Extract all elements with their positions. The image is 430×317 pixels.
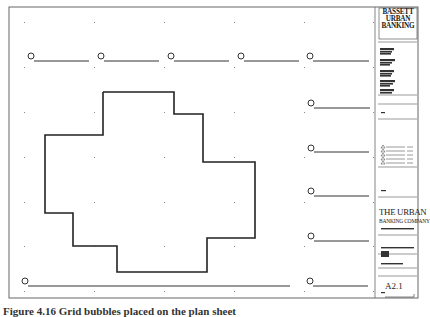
grid-bubble[interactable] (168, 53, 229, 61)
grid-bubble[interactable] (238, 53, 299, 61)
grid-bubble[interactable] (98, 53, 159, 61)
building-outline (45, 92, 255, 272)
bottom-grid-bubble[interactable] (22, 278, 290, 286)
company-name-line1: THE URBAN (379, 208, 426, 217)
figure-caption: Figure 4.16 Grid bubbles placed on the p… (3, 305, 236, 317)
grid-bubble[interactable] (308, 233, 369, 241)
grid-markers (24, 22, 374, 292)
grid-bubble[interactable] (28, 53, 89, 61)
grid-bubble[interactable] (308, 145, 369, 152)
revision-delta-icons (381, 145, 385, 164)
right-grid-bubbles (307, 100, 370, 286)
firm-header-line: BANKING (379, 23, 417, 30)
grid-bubble[interactable] (308, 188, 369, 196)
grid-bubble[interactable] (307, 53, 369, 61)
grid-bubble[interactable] (307, 278, 368, 286)
firm-header: BASSETT URBAN BANKING (379, 9, 417, 30)
grid-bubble[interactable] (308, 100, 370, 108)
company-name-line2: BANKING COMPANY (379, 219, 430, 225)
sheet-number: A2.1 (385, 282, 403, 291)
top-grid-bubbles (28, 53, 369, 61)
consultant-text-blocks (380, 48, 414, 293)
